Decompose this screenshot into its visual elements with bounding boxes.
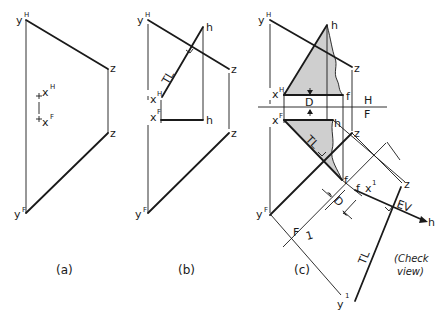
top-view-edge-yz	[148, 20, 229, 69]
label-yF: y	[14, 208, 21, 221]
projection-line-z	[352, 133, 402, 183]
label-h-aux: h	[428, 216, 435, 229]
label-fold-H: H	[364, 94, 372, 107]
label-xH: x	[42, 86, 49, 99]
panel-c: y H h z x H f D H F x F h TL z f y F f x…	[256, 11, 435, 311]
label-z-lower: z	[354, 127, 360, 140]
label-h-lower: h	[334, 117, 341, 130]
label-z-upper: z	[354, 62, 360, 75]
label-yF: y	[256, 208, 263, 221]
arrowhead-icon	[327, 192, 333, 198]
projection-line-h	[333, 120, 405, 182]
label-d-upper: D	[305, 96, 313, 109]
label-fold-1: 1	[304, 229, 314, 243]
label-x1-sup: 1	[372, 179, 376, 187]
label-z-upper: z	[110, 62, 116, 75]
label-xF: x	[150, 111, 157, 124]
label-yF: y	[135, 208, 142, 221]
label-xH: x	[272, 88, 279, 101]
label-yF-sup: F	[22, 206, 26, 214]
label-y1: y	[337, 298, 344, 311]
caption-a: (a)	[56, 263, 73, 277]
label-z-lower: z	[231, 127, 237, 140]
aux-true-length-line	[355, 187, 401, 301]
label-xF: x	[272, 114, 279, 127]
label-xH: x	[150, 93, 157, 106]
label-xH-sup: H	[157, 90, 162, 98]
arrowhead-icon	[307, 109, 313, 114]
label-xF: x	[42, 116, 49, 129]
label-z-aux: z	[404, 178, 410, 191]
label-yF-sup: F	[264, 206, 268, 214]
front-view-edge-yz	[148, 133, 229, 213]
label-yH-sup: H	[145, 11, 150, 19]
panel-b: y H h z TL x H x F h z y F (b)	[135, 11, 237, 277]
label-y1-sup: 1	[345, 292, 349, 300]
label-yH: y	[137, 14, 144, 27]
panel-a: y H z x H x F z y F (a)	[14, 11, 116, 277]
top-view-edge-yz	[26, 20, 108, 69]
label-xF-sup: F	[279, 112, 283, 120]
label-xF-sup: F	[50, 113, 54, 121]
top-view-shaded-plane	[284, 25, 343, 95]
caption-b: (b)	[178, 263, 195, 277]
label-z-upper: z	[231, 63, 237, 76]
dimension-extension-line	[343, 200, 356, 214]
label-xH-sup: H	[279, 86, 284, 94]
label-h-upper: h	[331, 19, 338, 32]
label-xH-sup: H	[50, 83, 55, 91]
caption-c: (c)	[294, 263, 310, 277]
projection-line-y	[271, 215, 341, 295]
label-yF-sup: F	[143, 206, 147, 214]
arrowhead-icon	[419, 216, 428, 223]
label-fold-F: F	[364, 108, 370, 121]
label-yH: y	[16, 14, 23, 27]
label-xF-sup: F	[157, 108, 161, 116]
label-z-lower: z	[110, 127, 116, 140]
label-h-lower: h	[206, 114, 213, 127]
label-check-view-1: (Check	[394, 253, 430, 264]
label-yH-sup: H	[24, 11, 29, 19]
label-h-upper: h	[206, 21, 213, 34]
label-yH-sup: H	[266, 11, 271, 19]
label-ev: EV	[395, 198, 413, 215]
true-length-line-xh	[162, 27, 203, 97]
label-tl: TL	[159, 68, 178, 87]
label-x1: x	[365, 182, 372, 195]
label-fold-F2: F	[293, 226, 299, 239]
front-view-edge-yz	[26, 133, 108, 213]
descriptive-geometry-figure: y H z x H x F z y F (a) y H h z TL x H x…	[0, 0, 442, 313]
label-check-view-2: view)	[397, 266, 424, 277]
label-yH: y	[258, 14, 265, 27]
label-f-upper: f	[346, 90, 351, 103]
